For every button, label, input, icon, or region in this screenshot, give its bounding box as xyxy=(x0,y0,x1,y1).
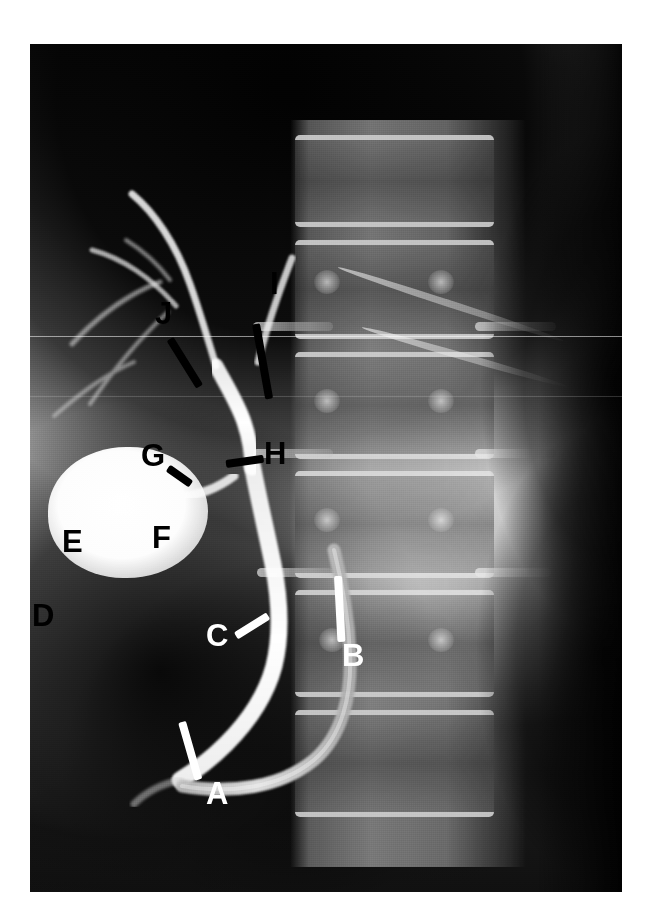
radiograph-plate xyxy=(30,44,622,892)
label-C: C xyxy=(206,620,228,651)
label-E: E xyxy=(62,526,83,557)
screenshot-root: J I G H F E D C B A xyxy=(0,0,654,914)
label-B: B xyxy=(342,640,364,671)
label-D: D xyxy=(32,600,54,631)
label-F: F xyxy=(152,522,171,553)
label-I: I xyxy=(270,268,279,299)
label-G: G xyxy=(141,440,165,471)
label-H: H xyxy=(264,438,286,469)
label-A: A xyxy=(206,778,228,809)
film-grain-layer xyxy=(30,44,622,892)
label-J: J xyxy=(155,298,172,329)
